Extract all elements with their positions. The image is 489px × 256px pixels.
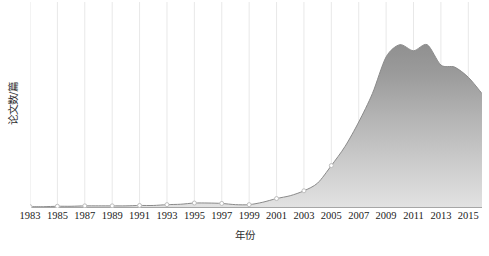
x-tick-label: 2011	[403, 209, 424, 223]
data-point-marker	[275, 197, 279, 201]
x-tick-label: 2013	[430, 209, 451, 223]
plot-svg	[30, 2, 482, 208]
data-point-marker	[192, 201, 196, 205]
x-tick-label: 1997	[211, 209, 232, 223]
data-point-marker	[83, 204, 87, 208]
x-tick-label: 1991	[129, 209, 150, 223]
data-point-marker	[247, 203, 251, 207]
x-tick-label: 2007	[348, 209, 369, 223]
series-area-fill	[30, 44, 482, 207]
data-point-marker	[165, 203, 169, 207]
plot-area	[30, 2, 482, 208]
x-tick-label: 2005	[321, 209, 342, 223]
x-tick-label: 2001	[266, 209, 287, 223]
area-chart: 论文数/篇 1983198519871989199119931995199719…	[0, 0, 489, 256]
x-tick-label: 1987	[74, 209, 95, 223]
data-point-marker	[138, 203, 142, 207]
x-tick-label: 1993	[157, 209, 178, 223]
x-tick-label: 1985	[47, 209, 68, 223]
x-tick-label: 2009	[376, 209, 397, 223]
x-tick-label: 2003	[293, 209, 314, 223]
x-axis-tick-labels: 1983198519871989199119931995199719992001…	[0, 209, 489, 227]
data-point-marker	[30, 205, 32, 208]
y-axis-title: 论文数/篇	[0, 0, 26, 207]
y-axis-title-text: 论文数/篇	[6, 82, 21, 126]
data-point-marker	[220, 201, 224, 205]
x-tick-label: 2015	[458, 209, 479, 223]
data-point-marker	[329, 164, 333, 168]
x-tick-label: 1995	[184, 209, 205, 223]
data-point-marker	[302, 189, 306, 193]
x-axis-title: 年份	[0, 227, 489, 242]
data-point-marker	[110, 204, 114, 208]
data-point-marker	[55, 204, 59, 208]
x-tick-label: 1989	[102, 209, 123, 223]
x-tick-label: 1999	[239, 209, 260, 223]
x-tick-label: 1983	[20, 209, 41, 223]
